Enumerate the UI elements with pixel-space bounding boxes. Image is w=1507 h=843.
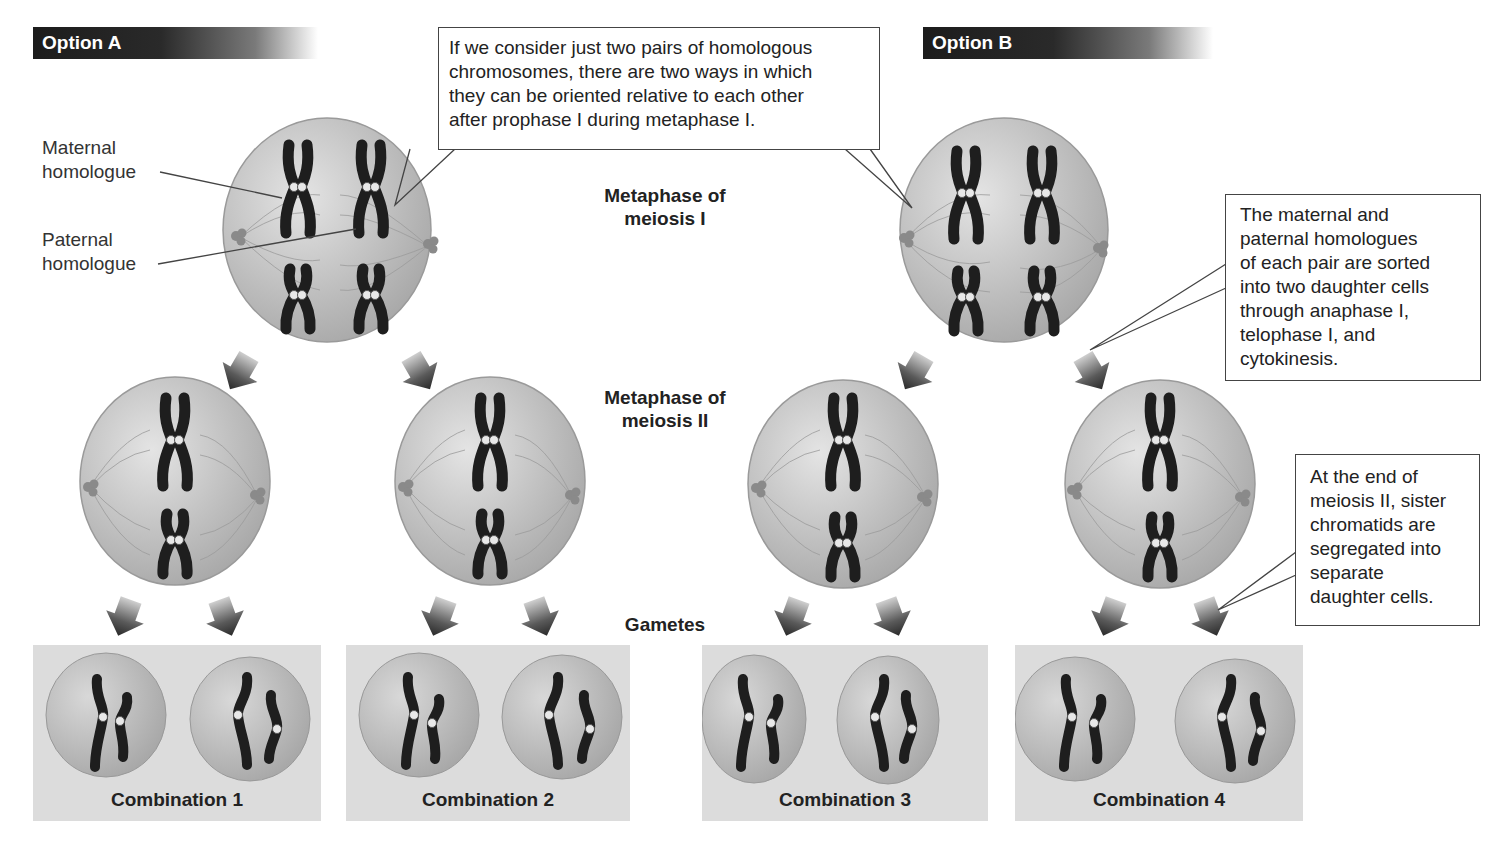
arrow-icon	[394, 346, 448, 399]
arrow-icon	[767, 593, 818, 642]
combination-panel-1: Combination 1	[33, 645, 321, 821]
arrow-icon	[1185, 593, 1236, 642]
arrow-icon	[888, 346, 942, 399]
arrow-icon	[1066, 346, 1120, 399]
metaphase-1-cell-b	[899, 118, 1109, 342]
combination-panel-4: Combination 4	[1015, 645, 1303, 821]
arrow-icon	[1084, 593, 1135, 642]
combination-panel-3: Combination 3	[702, 645, 988, 821]
stage-label-metaphase-2: Metaphase of meiosis II	[570, 386, 760, 432]
stage-label-metaphase-1: Metaphase of meiosis I	[570, 184, 760, 230]
combination-4-label: Combination 4	[1015, 789, 1303, 811]
metaphase-1-cell-a	[223, 118, 439, 342]
combination-3-label: Combination 3	[702, 789, 988, 811]
combination-2-label: Combination 2	[346, 789, 630, 811]
arrow-icon	[515, 593, 566, 642]
paternal-homologue-label: Paternal homologue	[42, 228, 136, 276]
callout-segregation: At the end of meiosis II, sister chromat…	[1295, 454, 1480, 626]
combination-1-label: Combination 1	[33, 789, 321, 811]
arrow-icon	[99, 593, 150, 642]
callout-sorting: The maternal and paternal homologues of …	[1225, 194, 1481, 381]
arrow-icon	[414, 593, 465, 642]
stage-label-gametes: Gametes	[570, 613, 760, 636]
callout-orientation: If we consider just two pairs of homolog…	[438, 27, 880, 150]
combination-panel-2: Combination 2	[346, 645, 630, 821]
arrow-icon	[200, 593, 251, 642]
maternal-homologue-label: Maternal homologue	[42, 136, 136, 184]
arrow-icon	[867, 593, 918, 642]
